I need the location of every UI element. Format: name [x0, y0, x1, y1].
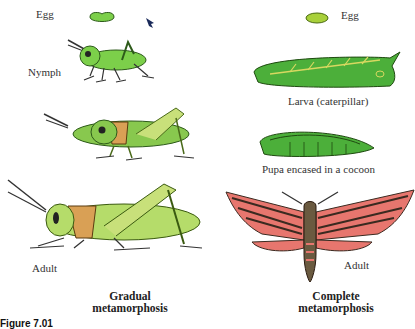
caterpillar-egg-illustration	[305, 12, 329, 24]
complete-metamorphosis-title: Complete metamorphosis	[276, 290, 396, 314]
gradual-metamorphosis-title: Gradual metamorphosis	[70, 290, 190, 314]
title-line1: Complete	[276, 290, 396, 302]
label-nymph: Nymph	[28, 66, 61, 78]
figure-caption: Figure 7.01	[0, 318, 53, 329]
label-egg-complete: Egg	[341, 9, 359, 21]
caption-prefix: Figure 7.01	[0, 318, 53, 329]
label-adult-gradual: Adult	[32, 262, 57, 274]
title-line1: Gradual	[70, 290, 190, 302]
adult-grasshopper-illustration	[4, 176, 204, 252]
label-egg-gradual: Egg	[36, 8, 54, 20]
grasshopper-egg-illustration	[88, 10, 116, 24]
title-line2: metamorphosis	[276, 302, 396, 314]
adult-moth-illustration	[222, 184, 415, 282]
label-pupa: Pupa encased in a cocoon	[262, 163, 375, 175]
label-larva: Larva (caterpillar)	[288, 95, 368, 107]
juvenile-grasshopper-illustration	[36, 104, 196, 162]
title-line2: metamorphosis	[70, 302, 190, 314]
pupa-illustration	[256, 126, 378, 160]
caterpillar-illustration	[250, 48, 402, 92]
label-adult-complete: Adult	[344, 259, 369, 271]
cursor-artifact	[145, 17, 157, 29]
nymph-grasshopper-illustration	[64, 36, 156, 86]
